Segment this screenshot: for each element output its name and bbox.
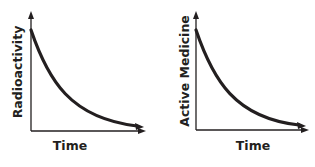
- y-axis-label: Active Medicine: [177, 15, 192, 127]
- x-axis-label: Time: [53, 138, 87, 153]
- y-axis-label: Radioactivity: [10, 26, 25, 119]
- y-axis-arrow-icon: [28, 11, 34, 19]
- decay-curve: [31, 30, 137, 126]
- radioactivity-chart: Radioactivity Time: [0, 0, 157, 167]
- y-axis-arrow-icon: [193, 11, 199, 19]
- x-axis-label: Time: [236, 138, 270, 153]
- x-axis-arrow-icon: [301, 127, 309, 133]
- active-medicine-chart: Active Medicine Time: [157, 0, 315, 167]
- decay-curve: [196, 30, 299, 125]
- x-axis-arrow-icon: [138, 128, 146, 134]
